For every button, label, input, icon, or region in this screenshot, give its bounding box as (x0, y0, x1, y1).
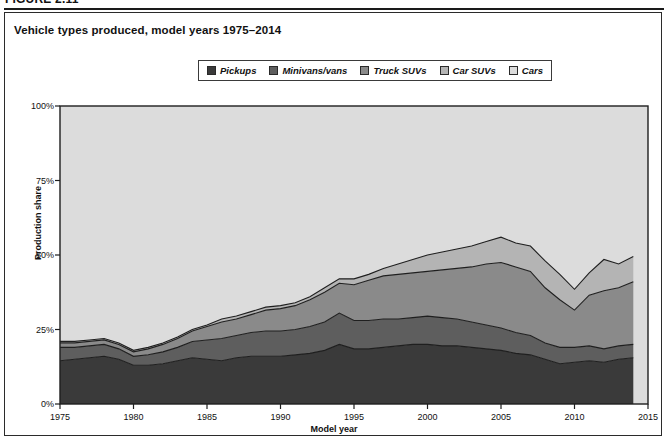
x-tick-label: 2010 (550, 412, 600, 422)
x-tick-label: 1980 (109, 412, 159, 422)
plot-wrapper: Production share Model year 0%25%50%75%1… (0, 0, 668, 440)
stacked-area-chart (0, 0, 668, 440)
x-tick-label: 2000 (403, 412, 453, 422)
x-tick-label: 2015 (623, 412, 668, 422)
y-tick-label: 100% (8, 101, 54, 111)
y-tick-label: 75% (8, 176, 54, 186)
y-tick-label: 50% (8, 250, 54, 260)
figure-container: FIGURE 2.11 Vehicle types produced, mode… (0, 0, 668, 440)
x-tick-label: 1995 (329, 412, 379, 422)
x-axis-title: Model year (0, 424, 668, 434)
x-tick-label: 2005 (476, 412, 526, 422)
y-tick-label: 25% (8, 325, 54, 335)
x-tick-label: 1985 (182, 412, 232, 422)
x-tick-label: 1975 (35, 412, 85, 422)
x-tick-label: 1990 (256, 412, 306, 422)
y-tick-label: 0% (8, 399, 54, 409)
